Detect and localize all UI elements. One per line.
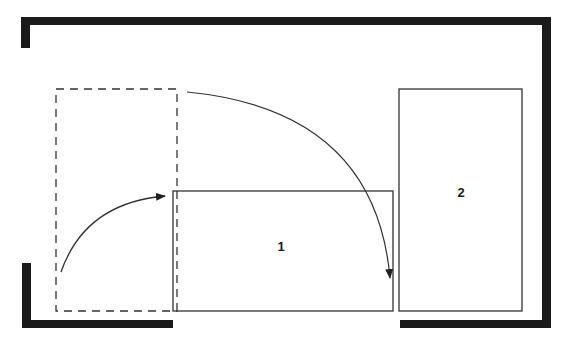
wall-right-segment <box>542 17 551 327</box>
wall-left-bottom-stub <box>22 263 31 328</box>
arrow-ghost-to-item-1 <box>61 196 165 272</box>
floor-plan-diagram: 1 2 <box>0 0 570 346</box>
item-2-label: 2 <box>457 185 464 200</box>
item-2-box <box>399 89 522 311</box>
wall-bottom-right-segment <box>400 320 551 328</box>
ghost-previous-position <box>56 89 177 311</box>
item-1-label: 1 <box>277 239 284 254</box>
wall-top-segment <box>21 17 551 25</box>
wall-bottom-left-segment <box>22 320 173 328</box>
